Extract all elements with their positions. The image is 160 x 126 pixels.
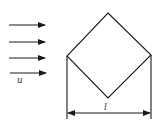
velocity-label: u <box>17 75 23 85</box>
dimension-width: l <box>67 55 151 119</box>
tilted-square <box>67 13 151 98</box>
diamond-shape <box>67 13 151 98</box>
width-label: l <box>104 102 107 112</box>
flow-arrows: u <box>9 25 46 85</box>
diagram-canvas: u l <box>0 0 160 126</box>
